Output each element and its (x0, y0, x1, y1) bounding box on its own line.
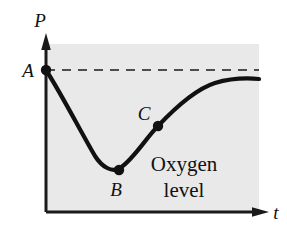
figure-container: P t A B C Oxygen level (0, 0, 287, 241)
y-axis-label: P (33, 10, 46, 31)
point-marker-c (153, 121, 163, 131)
oxygen-level-chart: P t A B C Oxygen level (0, 0, 287, 241)
oxygen-level-annotation-line1: Oxygen (151, 152, 218, 176)
point-marker-b (114, 165, 124, 175)
point-label-c: C (138, 103, 151, 124)
point-label-a: A (20, 60, 34, 81)
y-axis-arrowhead (41, 33, 51, 50)
oxygen-level-annotation-line2: level (164, 178, 205, 202)
point-marker-a (41, 65, 51, 75)
x-axis-arrowhead (252, 207, 269, 217)
point-label-b: B (110, 179, 122, 200)
x-axis-label: t (273, 202, 279, 223)
